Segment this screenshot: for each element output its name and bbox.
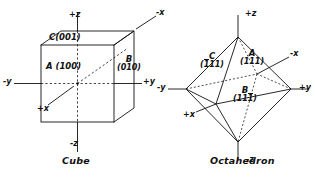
- oct-axis-label-minus-y: -y: [157, 84, 166, 92]
- oct-face-a-d3: 1: [255, 57, 261, 66]
- oct-axis-label-plus-z: +z: [245, 10, 256, 18]
- octahedron-caption: Octahedron: [210, 156, 275, 166]
- oct-face-label-a: A (111): [240, 49, 264, 66]
- oct-face-c-d1-bar: 1: [204, 60, 210, 69]
- oct-face-b-d2: 1: [242, 94, 248, 103]
- oct-face-a-index: (111): [240, 58, 264, 66]
- oct-face-b-index: (111): [231, 95, 259, 103]
- oct-face-b-d3-bar: 1: [248, 94, 254, 103]
- oct-face-c-index: (111): [198, 61, 226, 69]
- oct-axis-label-minus-x: -x: [290, 50, 298, 58]
- oct-face-label-c: C (111): [198, 52, 226, 69]
- oct-face-c-d3: 1: [215, 60, 221, 69]
- crystal-forms-figure: +z -z +y -y +x -x C(001) A (100) B (010)…: [0, 0, 315, 178]
- oct-axis-label-plus-x: +x: [183, 111, 195, 119]
- oct-face-label-b: B (111): [231, 86, 259, 103]
- oct-axis-label-plus-y: +y: [299, 84, 311, 92]
- oct-axis-plus-x: [196, 104, 216, 112]
